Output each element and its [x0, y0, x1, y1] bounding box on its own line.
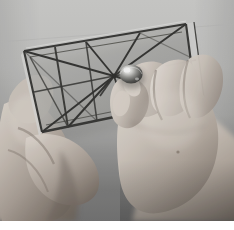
photograph	[0, 0, 234, 221]
photo-desaturate-veil	[0, 0, 234, 221]
screenshot-root	[0, 0, 234, 230]
photo-canvas	[0, 0, 234, 221]
photo-bottom-border	[0, 221, 234, 230]
